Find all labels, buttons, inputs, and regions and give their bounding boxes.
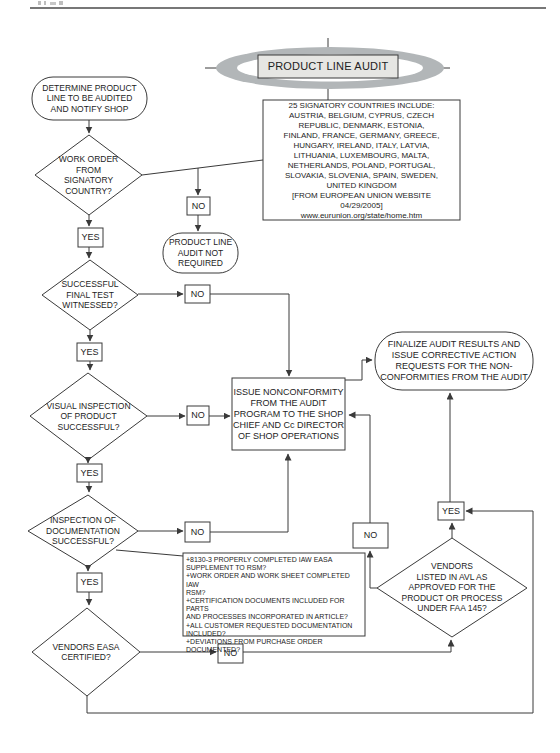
final-test-diamond-label: SUCCESSFUL FINAL TEST WITNESSED?	[42, 260, 138, 330]
edge-no2-to-issue-top	[210, 294, 289, 376]
doc-inspection-diamond-label: INSPECTION OF DOCUMENTATION SUCCESSFUL?	[28, 495, 138, 567]
vendors-avl-diamond-label: VENDORS LISTED IN AVL AS APPROVED FOR TH…	[377, 538, 527, 637]
edge-workorder-to-countries-note	[142, 160, 263, 175]
yes-label-doc: YES	[77, 573, 102, 592]
edge-avl-no-up	[370, 551, 377, 588]
work-order-diamond-label: WORK ORDER FROM SIGNATORY COUNTRY?	[35, 135, 142, 215]
countries-note-text: 25 SIGNATORY COUNTRIES INCLUDE: AUSTRIA,…	[263, 101, 460, 220]
doc-checklist-text: +8130-3 PROPERLY COMPLETED IAW EASA SUPP…	[186, 556, 363, 634]
visual-inspection-diamond-label: VISUAL INSPECTION OF PRODUCT SUCCESSFUL?	[30, 373, 147, 460]
vendors-easa-diamond-label: VENDORS EASA CERTIFIED?	[32, 608, 140, 696]
edge-issue-to-finalize	[345, 360, 372, 380]
clipped-header-text-fragment	[38, 1, 63, 5]
flowchart-product-line-audit: PRODUCT LINE AUDIT 25 SIGNATORY COUNTRIE…	[0, 0, 560, 753]
page-title: PRODUCT LINE AUDIT	[258, 55, 398, 78]
no-label-visual: NO	[187, 406, 209, 425]
no-label-doc: NO	[185, 522, 210, 542]
no-label-vendors-easa: NO	[218, 644, 243, 663]
audit-not-required-label: PRODUCT LINE AUDIT NOT REQUIRED	[163, 233, 238, 273]
edge-no4-to-issue-bottom	[210, 454, 288, 532]
determine-node-label: DETERMINE PRODUCT LINE TO BE AUDITED AND…	[32, 77, 147, 120]
no-label-final-test: NO	[185, 285, 210, 303]
finalize-node-label: FINALIZE AUDIT RESULTS AND ISSUE CORRECT…	[375, 332, 533, 390]
yes-label-avl: YES	[438, 502, 464, 520]
no-label-avl: NO	[353, 523, 388, 548]
issue-nonconformity-label: ISSUE NONCONFORMITY FROM THE AUDIT PROGR…	[232, 378, 345, 450]
no-label-work-order: NO	[187, 197, 210, 215]
yes-label-final-test: YES	[77, 343, 102, 361]
yes-label-visual: YES	[77, 464, 102, 482]
edge-no6-to-issue-right	[349, 415, 370, 523]
yes-label-work-order: YES	[78, 228, 103, 247]
